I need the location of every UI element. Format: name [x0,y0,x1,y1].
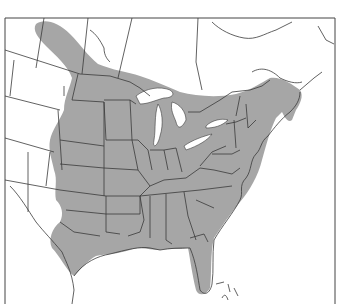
caribbean-islands [216,282,238,300]
hudson-bay-coast [90,22,292,62]
range-map [0,0,344,304]
maritime-coast [252,26,334,90]
range-area [35,21,302,294]
